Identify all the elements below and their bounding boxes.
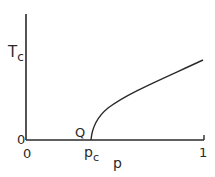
y-origin-label: 0 xyxy=(17,132,25,147)
phase-diagram-chart: Tc 0 0 Q pc 1 p xyxy=(0,0,215,177)
tc-curve xyxy=(91,60,203,140)
y-axis-label: Tc xyxy=(7,43,24,64)
pc-tick-label: pc xyxy=(84,144,99,164)
point-q-label: Q xyxy=(75,125,85,140)
x-origin-label: 0 xyxy=(23,146,31,161)
x-tick-label-one: 1 xyxy=(199,145,207,160)
x-axis-label: p xyxy=(113,155,122,171)
